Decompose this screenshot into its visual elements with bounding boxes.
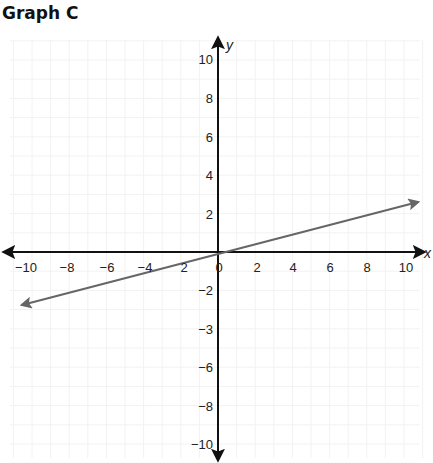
x-tick-label: 6 — [326, 260, 333, 275]
y-tick-label: 4 — [206, 168, 213, 183]
x-tick-label: 2 — [180, 260, 187, 275]
y-tick-label: −2 — [198, 283, 213, 298]
x-tick-label: 2 — [253, 260, 260, 275]
y-tick-label: 8 — [206, 91, 213, 106]
coordinate-plane: x y −10−8−6−420246810 108642−2−3−6−8−10 — [0, 0, 433, 463]
plotted-line — [22, 202, 418, 305]
x-tick-label: −8 — [60, 260, 75, 275]
y-tick-label: 10 — [199, 52, 213, 67]
y-tick-label: −3 — [198, 322, 213, 337]
x-axis-label: x — [423, 245, 432, 261]
y-tick-label: 2 — [206, 207, 213, 222]
y-tick-label: −8 — [198, 399, 213, 414]
x-tick-label: 10 — [399, 260, 413, 275]
x-tick-label: −6 — [100, 260, 115, 275]
x-tick-label: −10 — [15, 260, 37, 275]
x-tick-label: −4 — [138, 260, 153, 275]
y-tick-label: −10 — [191, 437, 213, 452]
y-tick-label: −6 — [198, 360, 213, 375]
x-tick-labels: −10−8−6−420246810 — [15, 260, 413, 275]
x-tick-label: 4 — [289, 260, 296, 275]
x-tick-label: 0 — [215, 260, 222, 275]
y-tick-label: 6 — [206, 130, 213, 145]
y-axis-label: y — [225, 37, 234, 53]
x-tick-label: 8 — [363, 260, 370, 275]
